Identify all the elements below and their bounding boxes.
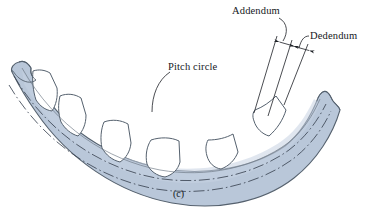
figure-caption: (c): [173, 188, 184, 199]
pitch-circle-leader-line: [152, 72, 170, 112]
addendum-label: Addendum: [232, 5, 280, 16]
tooth-space-dimensioned: [253, 96, 286, 136]
gear-tooth-figure: Addendum Dedendum Pitch circle (c): [0, 0, 373, 210]
addendum-leader-line: [279, 18, 286, 41]
gear-rim-band: [11, 61, 340, 206]
pitch-circle-label: Pitch circle: [168, 61, 217, 72]
dedendum-label: Dedendum: [310, 30, 357, 41]
